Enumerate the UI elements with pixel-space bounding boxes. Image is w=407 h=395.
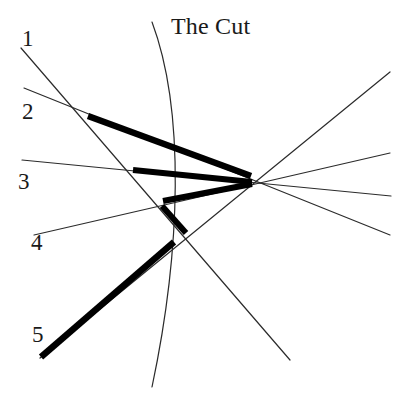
ray-label-3: 3	[18, 170, 30, 193]
chord-3-segment	[163, 184, 252, 201]
ray-label-1: 1	[22, 27, 34, 50]
figure-root: The Cut 1 2 3 4 5	[0, 0, 407, 395]
ray-1-line	[21, 48, 290, 360]
thick-chord-group	[41, 116, 252, 357]
ray-label-4: 4	[31, 231, 43, 254]
ray-label-5: 5	[32, 323, 44, 346]
thin-ray-group	[21, 48, 391, 360]
chord-5-segment	[41, 242, 174, 357]
ray-label-2: 2	[22, 100, 34, 123]
cut-curve-label: The Cut	[171, 14, 250, 38]
geometry-canvas	[0, 0, 407, 395]
chord-1-segment	[88, 116, 251, 176]
